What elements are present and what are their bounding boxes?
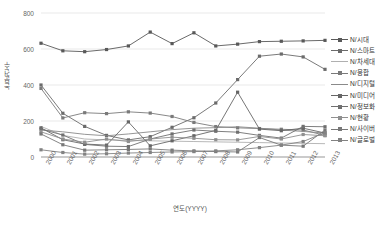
data-point bbox=[280, 144, 283, 147]
data-point bbox=[127, 120, 130, 123]
y-tick-400: 400 bbox=[12, 82, 34, 89]
data-point bbox=[258, 146, 261, 149]
data-point bbox=[105, 48, 108, 51]
data-point bbox=[61, 133, 64, 136]
data-point bbox=[323, 134, 326, 137]
data-point bbox=[39, 148, 42, 151]
legend-item-7[interactable]: N/현황 bbox=[331, 112, 391, 123]
y-tick-200: 200 bbox=[12, 118, 34, 125]
data-point bbox=[302, 145, 305, 148]
series-0 bbox=[39, 30, 326, 53]
legend-label: N/차세대 bbox=[350, 58, 375, 66]
data-point bbox=[302, 140, 305, 143]
data-point bbox=[61, 137, 64, 140]
data-point bbox=[236, 131, 239, 134]
legend-swatch-icon bbox=[331, 35, 348, 44]
legend-label: N/정보화 bbox=[350, 103, 375, 111]
data-point bbox=[61, 116, 64, 119]
data-point bbox=[302, 133, 305, 136]
data-point bbox=[192, 121, 195, 124]
data-point bbox=[39, 42, 42, 45]
data-point bbox=[83, 111, 86, 114]
data-point bbox=[127, 148, 130, 151]
legend-label: N/디지털 bbox=[350, 80, 375, 88]
data-point bbox=[192, 150, 195, 153]
data-point bbox=[280, 52, 283, 55]
legend-item-2[interactable]: N/차세대 bbox=[331, 56, 391, 67]
data-point bbox=[302, 39, 305, 42]
legend-label: N/스마트 bbox=[350, 47, 375, 55]
data-point bbox=[105, 148, 108, 151]
data-point bbox=[258, 55, 261, 58]
data-point bbox=[61, 112, 64, 115]
data-point bbox=[170, 136, 173, 139]
data-point bbox=[127, 145, 130, 148]
data-point bbox=[83, 141, 86, 144]
data-point bbox=[302, 55, 305, 58]
data-point bbox=[170, 126, 173, 129]
data-point bbox=[105, 112, 108, 115]
data-point bbox=[149, 30, 152, 33]
legend-swatch-icon bbox=[331, 136, 348, 145]
data-point bbox=[192, 31, 195, 34]
data-point bbox=[236, 148, 239, 151]
data-point bbox=[192, 116, 195, 119]
legend-item-8[interactable]: N/사이버 bbox=[331, 124, 391, 135]
legend-swatch-icon bbox=[331, 46, 348, 55]
legend-swatch-icon bbox=[331, 91, 348, 100]
data-point bbox=[170, 139, 173, 142]
chart-legend: N/시대N/스마트N/차세대N/융합N/디지털N/미디어N/정보화N/현황N/사… bbox=[331, 34, 391, 146]
data-point bbox=[170, 115, 173, 118]
data-point bbox=[39, 83, 42, 86]
data-point bbox=[127, 44, 130, 47]
data-point bbox=[214, 130, 217, 133]
y-tick-800: 800 bbox=[12, 10, 34, 17]
data-point bbox=[61, 49, 64, 52]
data-point bbox=[192, 137, 195, 140]
data-point bbox=[323, 39, 326, 42]
legend-swatch-icon bbox=[331, 113, 348, 122]
data-point bbox=[105, 137, 108, 140]
data-point bbox=[170, 42, 173, 45]
legend-swatch-icon bbox=[331, 80, 348, 89]
legend-label: N/시대 bbox=[350, 36, 369, 44]
data-point bbox=[214, 101, 217, 104]
data-point bbox=[236, 138, 239, 141]
legend-item-5[interactable]: N/미디어 bbox=[331, 90, 391, 101]
legend-item-1[interactable]: N/스마트 bbox=[331, 45, 391, 56]
data-point bbox=[192, 128, 195, 131]
data-point bbox=[39, 132, 42, 135]
data-point bbox=[214, 138, 217, 141]
legend-item-6[interactable]: N/정보화 bbox=[331, 101, 391, 112]
data-point bbox=[83, 125, 86, 128]
legend-item-3[interactable]: N/융합 bbox=[331, 68, 391, 79]
data-point bbox=[127, 151, 130, 154]
data-point bbox=[323, 125, 326, 128]
data-point bbox=[214, 44, 217, 47]
legend-item-0[interactable]: N/시대 bbox=[331, 34, 391, 45]
legend-item-4[interactable]: N/디지털 bbox=[331, 79, 391, 90]
series-3 bbox=[39, 87, 326, 137]
y-tick-600: 600 bbox=[12, 46, 34, 53]
data-point bbox=[236, 43, 239, 46]
data-point bbox=[258, 40, 261, 43]
legend-label: N/사이버 bbox=[350, 125, 375, 133]
legend-label: N/융합 bbox=[350, 69, 369, 77]
data-point bbox=[83, 153, 86, 156]
data-point bbox=[61, 143, 64, 146]
legend-label: N/미디어 bbox=[350, 92, 375, 100]
data-point bbox=[105, 152, 108, 155]
data-point bbox=[280, 129, 283, 132]
data-point bbox=[149, 147, 152, 150]
data-point bbox=[236, 91, 239, 94]
data-point bbox=[149, 151, 152, 154]
legend-item-9[interactable]: N/글로벌 bbox=[331, 135, 391, 146]
data-point bbox=[83, 149, 86, 152]
data-point bbox=[258, 136, 261, 139]
data-point bbox=[280, 137, 283, 140]
data-point bbox=[83, 50, 86, 53]
data-point bbox=[127, 140, 130, 143]
series-1 bbox=[39, 52, 326, 141]
data-point bbox=[61, 151, 64, 154]
data-point bbox=[170, 132, 173, 135]
